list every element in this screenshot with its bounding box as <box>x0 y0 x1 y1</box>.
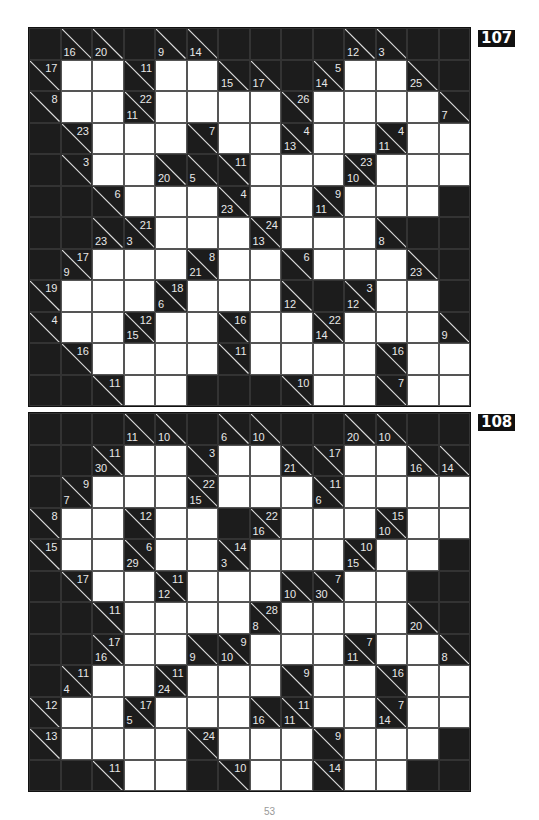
entry-cell[interactable] <box>155 445 187 477</box>
entry-cell[interactable] <box>155 602 187 634</box>
entry-cell[interactable] <box>124 665 156 697</box>
entry-cell[interactable] <box>376 760 408 792</box>
entry-cell[interactable] <box>155 217 187 249</box>
entry-cell[interactable] <box>92 728 124 760</box>
entry-cell[interactable] <box>281 760 313 792</box>
entry-cell[interactable] <box>61 539 93 571</box>
entry-cell[interactable] <box>344 343 376 375</box>
entry-cell[interactable] <box>250 154 282 186</box>
entry-cell[interactable] <box>187 91 219 123</box>
entry-cell[interactable] <box>61 728 93 760</box>
entry-cell[interactable] <box>407 665 439 697</box>
entry-cell[interactable] <box>92 312 124 344</box>
entry-cell[interactable] <box>439 476 471 508</box>
entry-cell[interactable] <box>124 280 156 312</box>
entry-cell[interactable] <box>250 476 282 508</box>
entry-cell[interactable] <box>281 634 313 666</box>
entry-cell[interactable] <box>250 728 282 760</box>
entry-cell[interactable] <box>344 728 376 760</box>
entry-cell[interactable] <box>218 217 250 249</box>
entry-cell[interactable] <box>155 60 187 92</box>
entry-cell[interactable] <box>124 602 156 634</box>
entry-cell[interactable] <box>313 665 345 697</box>
entry-cell[interactable] <box>407 634 439 666</box>
entry-cell[interactable] <box>187 602 219 634</box>
entry-cell[interactable] <box>344 249 376 281</box>
entry-cell[interactable] <box>218 571 250 603</box>
entry-cell[interactable] <box>155 249 187 281</box>
entry-cell[interactable] <box>344 91 376 123</box>
entry-cell[interactable] <box>155 91 187 123</box>
entry-cell[interactable] <box>376 634 408 666</box>
entry-cell[interactable] <box>250 571 282 603</box>
entry-cell[interactable] <box>344 602 376 634</box>
entry-cell[interactable] <box>344 375 376 407</box>
entry-cell[interactable] <box>407 91 439 123</box>
entry-cell[interactable] <box>124 634 156 666</box>
entry-cell[interactable] <box>155 476 187 508</box>
entry-cell[interactable] <box>250 539 282 571</box>
entry-cell[interactable] <box>344 186 376 218</box>
entry-cell[interactable] <box>407 154 439 186</box>
entry-cell[interactable] <box>313 154 345 186</box>
entry-cell[interactable] <box>124 154 156 186</box>
entry-cell[interactable] <box>376 728 408 760</box>
entry-cell[interactable] <box>439 154 471 186</box>
entry-cell[interactable] <box>92 539 124 571</box>
entry-cell[interactable] <box>407 186 439 218</box>
entry-cell[interactable] <box>344 445 376 477</box>
entry-cell[interactable] <box>376 60 408 92</box>
entry-cell[interactable] <box>187 665 219 697</box>
entry-cell[interactable] <box>407 123 439 155</box>
entry-cell[interactable] <box>313 91 345 123</box>
entry-cell[interactable] <box>92 280 124 312</box>
entry-cell[interactable] <box>92 123 124 155</box>
entry-cell[interactable] <box>439 123 471 155</box>
entry-cell[interactable] <box>155 312 187 344</box>
entry-cell[interactable] <box>344 60 376 92</box>
entry-cell[interactable] <box>250 760 282 792</box>
entry-cell[interactable] <box>124 760 156 792</box>
entry-cell[interactable] <box>218 445 250 477</box>
entry-cell[interactable] <box>313 217 345 249</box>
entry-cell[interactable] <box>187 217 219 249</box>
entry-cell[interactable] <box>218 602 250 634</box>
entry-cell[interactable] <box>187 508 219 540</box>
entry-cell[interactable] <box>187 539 219 571</box>
entry-cell[interactable] <box>313 539 345 571</box>
entry-cell[interactable] <box>61 280 93 312</box>
entry-cell[interactable] <box>344 697 376 729</box>
entry-cell[interactable] <box>439 508 471 540</box>
entry-cell[interactable] <box>155 728 187 760</box>
entry-cell[interactable] <box>155 123 187 155</box>
entry-cell[interactable] <box>124 375 156 407</box>
entry-cell[interactable] <box>250 634 282 666</box>
entry-cell[interactable] <box>376 445 408 477</box>
entry-cell[interactable] <box>250 280 282 312</box>
entry-cell[interactable] <box>281 539 313 571</box>
entry-cell[interactable] <box>313 123 345 155</box>
entry-cell[interactable] <box>124 123 156 155</box>
entry-cell[interactable] <box>376 476 408 508</box>
entry-cell[interactable] <box>92 476 124 508</box>
entry-cell[interactable] <box>344 217 376 249</box>
entry-cell[interactable] <box>124 186 156 218</box>
entry-cell[interactable] <box>439 375 471 407</box>
entry-cell[interactable] <box>187 343 219 375</box>
entry-cell[interactable] <box>187 571 219 603</box>
entry-cell[interactable] <box>218 249 250 281</box>
entry-cell[interactable] <box>250 249 282 281</box>
entry-cell[interactable] <box>155 634 187 666</box>
entry-cell[interactable] <box>407 539 439 571</box>
entry-cell[interactable] <box>155 539 187 571</box>
entry-cell[interactable] <box>376 249 408 281</box>
entry-cell[interactable] <box>155 186 187 218</box>
entry-cell[interactable] <box>439 665 471 697</box>
entry-cell[interactable] <box>218 728 250 760</box>
entry-cell[interactable] <box>281 312 313 344</box>
entry-cell[interactable] <box>376 186 408 218</box>
entry-cell[interactable] <box>124 445 156 477</box>
entry-cell[interactable] <box>344 508 376 540</box>
entry-cell[interactable] <box>407 375 439 407</box>
entry-cell[interactable] <box>187 312 219 344</box>
